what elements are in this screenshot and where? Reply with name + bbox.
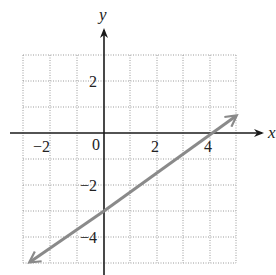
x-tick-label: 0 (92, 136, 100, 153)
y-axis-label: y (97, 5, 107, 24)
y-tick-label: 2 (89, 73, 97, 90)
x-tick-label: 4 (204, 138, 212, 155)
x-tick-label: 2 (151, 138, 159, 155)
grid-lines (23, 55, 236, 263)
plotted-line-upper (104, 116, 236, 211)
x-tick-label: −2 (33, 138, 50, 155)
y-tick-label: −2 (80, 177, 97, 194)
x-axis-label: x (267, 123, 276, 142)
coordinate-plane: y x −2 0 2 4 2 −2 −4 (0, 0, 276, 275)
y-tick-label: −4 (80, 229, 97, 246)
